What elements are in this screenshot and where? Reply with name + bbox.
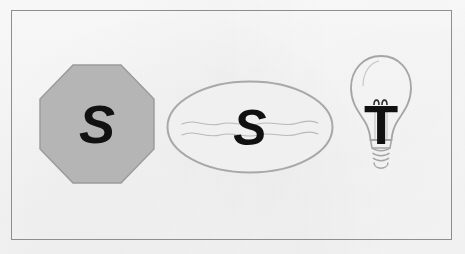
ellipse-letter: S <box>233 100 266 156</box>
ellipse-figure: S <box>166 80 334 174</box>
bulb-glass-highlight <box>363 61 379 86</box>
octagon-letter: S <box>79 94 115 154</box>
octagon-figure: S <box>39 64 155 184</box>
image-canvas: S S <box>0 0 465 254</box>
lightbulb-figure: T <box>344 52 418 192</box>
lightbulb-letter: T <box>364 93 398 156</box>
